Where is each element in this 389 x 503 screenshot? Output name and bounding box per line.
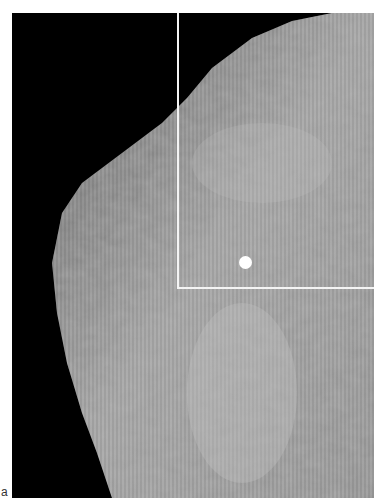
panel-label: a: [1, 485, 8, 499]
mammogram-image: [12, 13, 374, 498]
marker-dot: [239, 256, 252, 269]
region-of-interest-box: [177, 13, 374, 289]
